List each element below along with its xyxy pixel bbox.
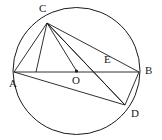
point-label-O: O <box>72 75 80 86</box>
point-label-A: A <box>9 78 17 89</box>
segment-BD <box>125 72 139 105</box>
segment-C-to-chord-AB <box>36 23 47 72</box>
point-label-E: E <box>104 54 111 65</box>
point-label-D: D <box>131 108 139 119</box>
point-label-B: B <box>145 65 152 76</box>
geometry-canvas <box>0 0 162 140</box>
center-dot-O <box>75 69 78 72</box>
segment-AD <box>14 72 125 105</box>
segment-CE <box>47 23 125 105</box>
geometry-figure: A B C D O E <box>0 0 162 140</box>
point-label-C: C <box>39 3 46 14</box>
segment-AC <box>14 23 47 72</box>
segment-CO <box>47 23 77 71</box>
